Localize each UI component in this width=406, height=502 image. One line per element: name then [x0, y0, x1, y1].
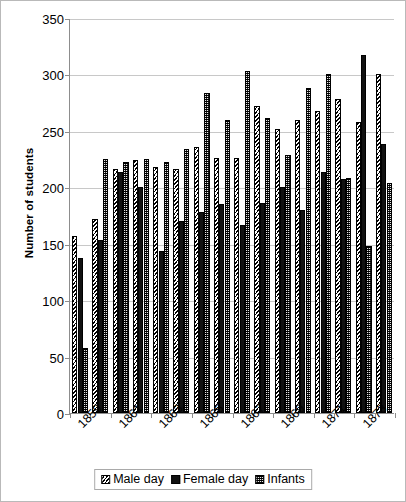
- bar-infants: [123, 162, 128, 413]
- y-tick-label: 250: [26, 125, 64, 138]
- legend-label: Infants: [267, 472, 305, 486]
- bar-female: [179, 221, 184, 413]
- bar-group: [70, 19, 90, 413]
- bar-male: [335, 99, 340, 413]
- plot-area: 050100150200250300350: [69, 19, 394, 414]
- bar-male: [173, 169, 178, 413]
- bar-male: [194, 147, 199, 413]
- bar-infants: [387, 183, 392, 413]
- bar-male: [113, 169, 118, 413]
- bar-female: [280, 187, 285, 413]
- bar-group: [90, 19, 110, 413]
- bar-female: [321, 172, 326, 414]
- bar-female: [98, 240, 103, 413]
- bar-group: [151, 19, 171, 413]
- y-tick-label: 300: [26, 69, 64, 82]
- bar-male: [72, 236, 77, 413]
- y-tick-label: 150: [26, 238, 64, 251]
- chart-legend: Male dayFemale dayInfants: [94, 469, 312, 490]
- bar-female: [341, 179, 346, 413]
- bar-female: [199, 212, 204, 413]
- x-tick-mark: [395, 413, 396, 418]
- bar-group: [212, 19, 232, 413]
- bar-infants: [144, 159, 149, 413]
- bar-female: [138, 187, 143, 413]
- bar-infants: [285, 155, 290, 413]
- y-tick-label: 200: [26, 182, 64, 195]
- bar-infants: [306, 88, 311, 413]
- bar-female: [219, 204, 224, 413]
- y-tick-label: 50: [26, 351, 64, 364]
- bar-group: [273, 19, 293, 413]
- bar-group: [192, 19, 212, 413]
- bar-infants: [204, 93, 209, 414]
- bar-infants: [83, 348, 88, 413]
- legend-label: Male day: [113, 472, 164, 486]
- legend-item: Female day: [171, 472, 248, 486]
- y-tick-label: 350: [26, 13, 64, 26]
- bar-male: [295, 120, 300, 413]
- legend-item: Infants: [255, 472, 305, 486]
- bar-female: [78, 258, 83, 413]
- bar-group: [252, 19, 272, 413]
- bar-group: [374, 19, 394, 413]
- bar-infants: [326, 74, 331, 413]
- bar-female: [240, 225, 245, 413]
- checker-swatch-icon: [255, 475, 264, 484]
- bar-infants: [184, 149, 189, 413]
- bar-infants: [164, 162, 169, 413]
- chart-figure: Number of students 050100150200250300350…: [0, 0, 406, 502]
- bar-female: [260, 203, 265, 413]
- bar-male: [234, 158, 239, 413]
- bar-infants: [103, 159, 108, 413]
- bar-infants: [265, 118, 270, 413]
- bar-male: [133, 160, 138, 413]
- hatch-swatch-icon: [101, 475, 110, 484]
- bar-female: [361, 55, 366, 413]
- y-tick-label: 0: [26, 408, 64, 421]
- y-axis-title: Number of students: [23, 123, 35, 283]
- bar-male: [376, 74, 381, 413]
- x-axis-labels: 18591861186318651867186918711873: [69, 415, 393, 463]
- bar-group: [313, 19, 333, 413]
- bar-group: [354, 19, 374, 413]
- solid-swatch-icon: [171, 475, 180, 484]
- bar-group: [333, 19, 353, 413]
- y-tick-label: 100: [26, 295, 64, 308]
- bar-groups: [70, 19, 394, 413]
- legend-label: Female day: [183, 472, 248, 486]
- bar-group: [131, 19, 151, 413]
- bar-group: [171, 19, 191, 413]
- legend-item: Male day: [101, 472, 164, 486]
- bar-infants: [225, 120, 230, 413]
- bar-male: [254, 106, 259, 413]
- bar-group: [232, 19, 252, 413]
- bar-male: [214, 158, 219, 413]
- bar-female: [300, 210, 305, 413]
- bar-male: [356, 122, 361, 413]
- bar-infants: [346, 178, 351, 413]
- bar-male: [315, 111, 320, 413]
- bar-female: [118, 172, 123, 414]
- bar-female: [381, 144, 386, 413]
- bar-male: [153, 167, 158, 413]
- bar-group: [293, 19, 313, 413]
- bar-female: [159, 251, 164, 414]
- bar-infants: [366, 246, 371, 413]
- bar-group: [111, 19, 131, 413]
- bar-male: [275, 129, 280, 413]
- bar-infants: [245, 71, 250, 413]
- bar-male: [92, 219, 97, 413]
